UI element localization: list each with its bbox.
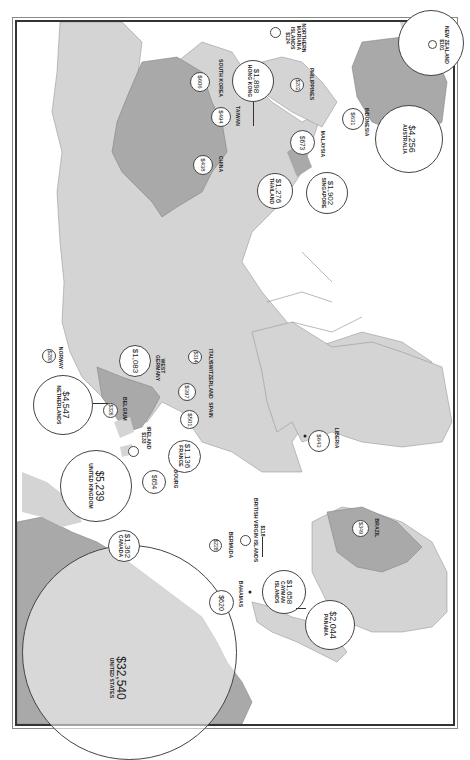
bubble-united-states[interactable] — [22, 545, 237, 760]
label-australia: $4,256 AUSTRALIA — [402, 124, 417, 154]
label-philippines-name: PHILIPPINES — [308, 68, 313, 100]
label-new-zealand: NEW ZEALAND $101 — [439, 26, 450, 64]
label-netherlands: $4,547 NETHERLANDS — [56, 386, 71, 425]
label-panama: $2,044 PANAMA — [323, 611, 338, 639]
label-italy-value: $314 — [192, 351, 197, 362]
label-thailand: $1,276 THAILAND — [268, 178, 282, 204]
marker-liberia — [304, 435, 307, 438]
label-ireland: IRELAND $133 — [141, 427, 152, 450]
label-bermuda-value: $228 — [212, 539, 217, 550]
label-west-germany-value: $1,083 — [131, 349, 139, 373]
label-taiwan-value: $494 — [218, 110, 224, 123]
label-philippines-value: $202 — [294, 79, 299, 90]
label-hong-kong: $1,898 HONG KONG — [246, 65, 260, 97]
label-northern-mariana-islands: NORTHERN MARIANA ISLANDS $124 — [285, 21, 306, 55]
label-united-kingdom: $5,239 UNITED KINGDOM — [88, 463, 104, 509]
label-italy-name: ITALY — [207, 349, 212, 363]
label-bvi-value: $118 — [259, 525, 264, 536]
label-south-korea-name: SOUTH KOREA — [217, 59, 222, 97]
label-norway-value: $280 — [46, 350, 51, 361]
label-indonesia-value: $631 — [350, 112, 356, 125]
label-singapore: $1,902 SINGAPORE — [320, 178, 334, 209]
label-taiwan-name: TAIWAN — [234, 106, 239, 126]
label-norway-name: NORWAY — [57, 347, 62, 370]
label-malaysia-name: MALAYSIA — [319, 131, 324, 157]
label-cayman-islands: $1,658 CAYMAN ISLANDS — [275, 578, 294, 606]
label-united-states: $32,540 UNITED STATES — [109, 656, 127, 699]
label-liberia-value: $643 — [316, 434, 322, 447]
bubble-ireland[interactable] — [128, 446, 139, 457]
bubble-new-zealand[interactable] — [428, 40, 437, 49]
label-belgium-name: BELGIUM — [121, 397, 126, 421]
label-bahamas-name: BAHAMAS — [237, 581, 242, 607]
label-bahamas-value: $620 — [217, 595, 224, 611]
label-luxembourg-value: $654 — [151, 475, 158, 489]
marker-bahamas — [249, 591, 252, 594]
label-liberia-name: LIBERIA — [333, 428, 338, 449]
label-west-germany-name: WEST GERMANY — [155, 355, 166, 377]
label-spain-name: SPAIN — [207, 402, 212, 417]
label-brazil-value: $349 — [357, 522, 363, 534]
leader-bvi — [262, 537, 263, 557]
label-china-value: $438 — [200, 158, 206, 171]
label-south-korea-value: $606 — [197, 75, 203, 88]
label-spain-value: $501 — [187, 413, 193, 426]
label-brazil-name: BRAZIL — [373, 519, 378, 538]
label-switzerland-name: SWITZERLAND — [207, 361, 212, 398]
label-belgium-value: $326 — [107, 404, 112, 415]
label-malaysia-value: $673 — [299, 136, 306, 150]
label-canada: $1,362 CANADA — [117, 534, 131, 558]
bubble-northern-mariana-islands[interactable] — [270, 27, 281, 38]
label-bermuda-name: BERMUDA — [227, 532, 232, 558]
bubble-british-virgin-islands[interactable] — [240, 535, 251, 546]
leader-hong-kong — [253, 102, 254, 126]
label-bvi-name: BRITISH VIRGIN ISLANDS — [252, 498, 257, 562]
label-indonesia-name: INDONESIA — [363, 108, 368, 137]
label-china-name: CHINA — [217, 156, 222, 172]
label-france: $1,136 FRANCE — [177, 444, 191, 468]
label-switzerland-value: $397 — [184, 385, 190, 398]
leader-panama — [296, 608, 306, 609]
